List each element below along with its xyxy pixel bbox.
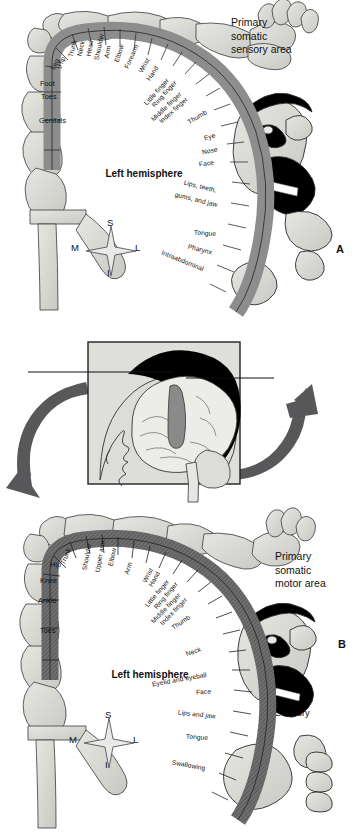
homunculus-label: Foot (40, 79, 55, 88)
compass-medial: M (71, 242, 79, 253)
sensory-hemisphere-label: Left hemisphere (104, 168, 184, 180)
homunculus-label: Face (196, 687, 212, 695)
motor-face (224, 603, 333, 812)
compass-rose-sensory: S I M L (80, 220, 142, 282)
arrow-to-sensory-icon (232, 384, 318, 480)
panel-brain-inset: Motor Sensory (0, 330, 357, 510)
compass-star-icon (78, 712, 140, 774)
brain-inset-diagram (0, 330, 357, 510)
homunculus-label: Tongue (186, 733, 209, 742)
homunculus-label: Knee (40, 576, 57, 585)
sensory-diagram (0, 0, 357, 330)
homunculus-label: Toes (41, 92, 57, 101)
compass-inferior: I (107, 267, 110, 278)
panel-letter-b: B (338, 638, 346, 650)
compass-medial: M (69, 734, 77, 745)
motor-area-title: Primary somatic motor area (275, 550, 326, 591)
panel-letter-a: A (336, 243, 344, 255)
homunculus-label: Tongue (194, 229, 217, 238)
compass-rose-motor: S I M L (78, 712, 140, 774)
homunculus-label: Toes (40, 626, 56, 635)
arrow-to-motor-icon (6, 382, 89, 498)
panel-sensory: Primary somatic sensory area Left hemisp… (0, 0, 357, 330)
compass-lateral: L (135, 242, 140, 253)
compass-superior: S (107, 217, 113, 228)
motor-strip (168, 385, 186, 448)
compass-inferior: I (105, 759, 108, 770)
homunculus-label: Genitals (39, 116, 66, 125)
homunculus-label: Ankle (38, 596, 56, 605)
sensory-area-title: Primary somatic sensory area (231, 16, 292, 57)
compass-superior: S (105, 709, 111, 720)
compass-star-icon (80, 220, 142, 282)
compass-lateral: L (133, 734, 138, 745)
panel-motor: Primary somatic motor area Left hemisphe… (0, 500, 357, 838)
